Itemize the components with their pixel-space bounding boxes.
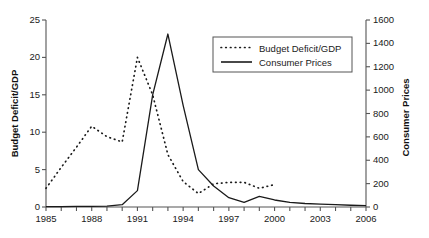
y-tick-left-15: 15: [0, 90, 40, 100]
y-tick-left-0: 0: [0, 202, 40, 212]
x-tick-1994: 1994: [163, 214, 203, 224]
x-tick-2003: 2003: [300, 214, 340, 224]
y-tick-right-1600: 1600: [373, 15, 413, 25]
y-tick-right-1200: 1200: [373, 62, 413, 72]
plot-area: [0, 0, 429, 238]
x-tick-2006: 2006: [346, 214, 386, 224]
y-tick-left-10: 10: [0, 127, 40, 137]
y-tick-right-1400: 1400: [373, 38, 413, 48]
y-tick-right-400: 400: [373, 155, 413, 165]
x-axis-ticks: [46, 207, 366, 211]
chart-figure: Budget Deficit/GDP Consumer Prices Budge…: [0, 0, 429, 238]
series-line-budget-deficit: [46, 57, 275, 193]
y-tick-right-600: 600: [373, 132, 413, 142]
y-axis-left-ticks: [42, 20, 46, 207]
y-axis-right-ticks: [366, 20, 370, 207]
y-tick-right-200: 200: [373, 179, 413, 189]
x-tick-1985: 1985: [26, 214, 66, 224]
x-tick-1997: 1997: [209, 214, 249, 224]
x-tick-2000: 2000: [255, 214, 295, 224]
y-tick-left-20: 20: [0, 52, 40, 62]
y-tick-right-1000: 1000: [373, 85, 413, 95]
legend-label-budget-deficit: Budget Deficit/GDP: [259, 43, 341, 54]
legend-label-consumer-prices: Consumer Prices: [259, 57, 332, 68]
y-tick-right-0: 0: [373, 202, 413, 212]
y-tick-right-800: 800: [373, 109, 413, 119]
y-tick-left-25: 25: [0, 15, 40, 25]
y-tick-left-5: 5: [0, 165, 40, 175]
x-tick-1988: 1988: [72, 214, 112, 224]
x-tick-1991: 1991: [117, 214, 157, 224]
